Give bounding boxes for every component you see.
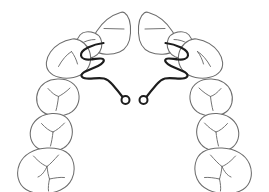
- tooth-outline-ul4: [190, 79, 232, 116]
- tooth-marking-ul1-0: [145, 29, 165, 30]
- tooth-outline-ur4: [37, 79, 79, 116]
- tooth-upper-right-second-premolar[interactable]: [30, 113, 72, 151]
- tooth-upper-left-first-molar[interactable]: [195, 148, 252, 192]
- tooth-upper-right-first-molar[interactable]: [18, 148, 75, 192]
- tooth-upper-left-second-premolar[interactable]: [197, 113, 239, 151]
- tooth-outline-ul5: [197, 113, 239, 151]
- tooth-outline-ur6: [18, 148, 75, 192]
- tooth-upper-left-first-premolar[interactable]: [190, 79, 232, 116]
- tooth-outline-ur5: [30, 113, 72, 151]
- tooth-outline-ul6: [195, 148, 252, 192]
- appliance-helix-loop-right[interactable]: [122, 96, 130, 104]
- tooth-marking-ur1-0: [104, 29, 124, 30]
- appliance-helix-loop-left[interactable]: [140, 96, 148, 104]
- dental-arch-diagram: [0, 0, 269, 192]
- tooth-upper-right-first-premolar[interactable]: [37, 79, 79, 116]
- arch-svg-canvas: [0, 0, 269, 192]
